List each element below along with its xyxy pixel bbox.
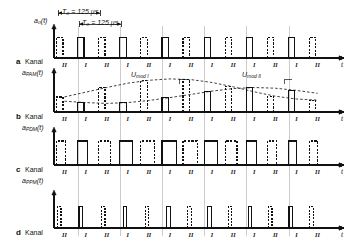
umod-2-label: Umod II	[242, 71, 261, 79]
row-kanal-d: Kanal	[25, 229, 43, 236]
channel-mark: II	[188, 61, 194, 68]
channel-mark: I	[252, 61, 256, 68]
ppm-pulse-channel-I	[289, 206, 293, 228]
figure-canvas: tIIIIIIIIIIIIIIIIIIIItIIIIIIIIIIIIIIIIII…	[0, 0, 358, 247]
signal-label-ppm-c: aPPM(t)	[22, 177, 43, 185]
channel-mark: I	[252, 168, 256, 175]
ppm-pulse-channel-I	[208, 206, 212, 228]
umod2-leader	[285, 79, 292, 84]
ppm-pulse-channel-I	[248, 206, 252, 228]
row-letter-d: d	[16, 229, 21, 237]
time-axis-label: t	[341, 60, 344, 69]
clock-pulse-channel-II	[183, 37, 189, 58]
channel-mark: I	[83, 168, 87, 175]
clock-pulse-channel-II	[141, 37, 147, 58]
channel-mark: I	[294, 231, 298, 238]
pam-pulse-channel-II	[99, 88, 105, 113]
channel-mark: II	[103, 168, 109, 175]
pdm-pulse-channel-II	[57, 141, 66, 165]
value-axis-arrow	[52, 24, 56, 29]
channel-mark: I	[210, 168, 214, 175]
ppm-pulse-channel-I	[167, 206, 171, 228]
value-axis-arrow	[52, 127, 56, 132]
pam-pulse-channel-I	[78, 103, 84, 112]
signal-label-pdm: aPDM(t)	[22, 124, 44, 132]
value-axis-arrow	[52, 190, 56, 195]
row-letter-b: b	[16, 113, 21, 121]
clock-pulse-channel-II	[310, 37, 316, 58]
clock-pulse-channel-II	[57, 37, 63, 58]
channel-mark: II	[61, 231, 67, 238]
channel-mark: I	[294, 115, 298, 122]
signal-label-pam: aPAM(t)	[22, 69, 43, 77]
clock-pulse-channel-I	[120, 37, 126, 58]
channel-mark: I	[294, 168, 298, 175]
ppm-pulse-channel-I	[123, 206, 127, 228]
pam-pulse-channel-II	[225, 87, 231, 112]
channel-mark: I	[168, 231, 172, 238]
time-axis-label: t	[341, 230, 344, 239]
signal-label-a0: a₀(t)	[34, 17, 47, 24]
channel-mark: II	[103, 231, 109, 238]
pam-pulse-channel-I	[204, 91, 210, 112]
time-axis-label: t	[341, 167, 344, 176]
channel-mark: II	[272, 168, 278, 175]
channel-mark: II	[188, 168, 194, 175]
pam-pulse-channel-II	[141, 80, 147, 112]
channel-mark: II	[230, 168, 236, 175]
pdm-pulse-channel-I	[246, 141, 257, 165]
channel-mark: I	[83, 231, 87, 238]
pdm-pulse-channel-II	[310, 141, 318, 165]
ppm-pulse-channel-II	[58, 206, 62, 228]
channel-mark: II	[145, 61, 151, 68]
channel-mark: II	[61, 115, 67, 122]
channel-mark: I	[252, 231, 256, 238]
pdm-pulse-channel-II	[225, 141, 237, 165]
value-axis-arrow	[52, 68, 56, 73]
channel-mark: II	[314, 115, 320, 122]
clock-pulse-channel-I	[204, 37, 210, 58]
channel-mark: I	[126, 115, 130, 122]
pam-pulse-channel-II	[57, 97, 63, 112]
channel-mark: I	[210, 115, 214, 122]
umod-1-label: Umod I	[131, 71, 149, 79]
channel-mark: II	[272, 231, 278, 238]
channel-mark: II	[272, 61, 278, 68]
time-axis-label: t	[341, 114, 344, 123]
channel-mark: II	[230, 61, 236, 68]
pdm-pulse-channel-I	[288, 141, 296, 165]
pdm-pulse-channel-I	[78, 141, 88, 165]
channel-mark: II	[314, 168, 320, 175]
pam-pulse-channel-I	[162, 98, 168, 112]
pdm-pulse-channel-II	[141, 141, 155, 165]
envelope-channel-II	[65, 88, 318, 104]
channel-mark: I	[126, 231, 130, 238]
ppm-pulse-channel-I	[79, 206, 83, 228]
clock-pulse-channel-I	[78, 37, 84, 58]
channel-mark: II	[145, 231, 151, 238]
channel-mark: II	[272, 115, 278, 122]
ppm-pulse-channel-II	[310, 206, 314, 228]
ppm-pulse-channel-II	[188, 206, 192, 228]
channel-mark: II	[103, 61, 109, 68]
channel-mark: II	[230, 231, 236, 238]
channel-mark: II	[145, 168, 151, 175]
envelope-channel-I	[65, 79, 318, 100]
clock-pulse-channel-I	[288, 37, 294, 58]
row-kanal-a: Kanal	[25, 58, 43, 65]
pdm-pulse-channel-II	[183, 141, 197, 165]
channel-mark: I	[126, 61, 130, 68]
ppm-pulse-channel-II	[102, 206, 106, 228]
period-label-T0-lower: T₀ = 125 μs	[82, 19, 118, 26]
channel-mark: II	[145, 115, 151, 122]
pdm-pulse-channel-I	[120, 141, 133, 165]
row-kanal-b: Kanal	[25, 113, 43, 120]
channel-mark: I	[210, 231, 214, 238]
row-kanal-c: Kanal	[25, 166, 43, 173]
row-letter-a: a	[16, 58, 20, 66]
clock-pulse-channel-II	[99, 37, 105, 58]
channel-mark: II	[188, 231, 194, 238]
channel-mark: II	[230, 115, 236, 122]
channel-mark: II	[314, 61, 320, 68]
pam-pulse-channel-II	[310, 100, 316, 112]
